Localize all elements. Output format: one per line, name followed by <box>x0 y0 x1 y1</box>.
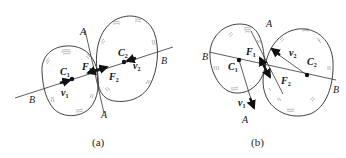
center-c1-dot <box>237 58 241 62</box>
label-v1: v1 <box>238 97 245 109</box>
label-line-b-right: B <box>333 84 339 95</box>
body-2-outline <box>263 29 333 116</box>
velocity-v1-arrow <box>250 98 254 108</box>
figure-canvas: A A B B C1 C2 F1 F2 v1 v2 (a) <box>0 0 346 158</box>
velocity-v2-arrow <box>272 49 280 55</box>
force-f2-arrow <box>265 68 270 77</box>
label-line-a-bottom: A <box>100 109 108 120</box>
velocity-v1-arrow <box>60 80 70 83</box>
label-f2: F2 <box>108 71 119 83</box>
line-b <box>15 47 173 98</box>
caption-a: (a) <box>92 136 105 149</box>
label-v1: v1 <box>61 87 68 99</box>
label-c2: C2 <box>118 47 128 59</box>
center-c1-dot <box>70 77 74 81</box>
label-f1: F1 <box>245 46 256 58</box>
force-f2-arrow <box>97 67 107 70</box>
panel-a: A A B B C1 C2 F1 F2 v1 v2 (a) <box>15 16 173 149</box>
label-v2: v2 <box>289 47 296 59</box>
label-c1: C1 <box>60 66 70 78</box>
label-line-a-top: A <box>265 18 273 29</box>
label-line-b-left: B <box>29 94 35 105</box>
label-line-b-left: B <box>202 51 208 62</box>
label-v2: v2 <box>133 60 140 72</box>
label-f2: F2 <box>280 75 291 87</box>
label-line-a-bottom: A <box>241 114 249 125</box>
label-line-a-top: A <box>79 26 87 37</box>
label-line-b-right: B <box>161 55 167 66</box>
panel-b: A A B B C1 C2 F1 F2 v1 v2 (b) <box>202 18 339 149</box>
center-c2-dot <box>305 73 309 77</box>
caption-b: (b) <box>251 136 264 149</box>
label-c2: C2 <box>307 56 317 68</box>
label-f1: F1 <box>81 61 92 73</box>
center-c2-dot <box>122 60 126 64</box>
label-c1: C1 <box>228 61 238 73</box>
